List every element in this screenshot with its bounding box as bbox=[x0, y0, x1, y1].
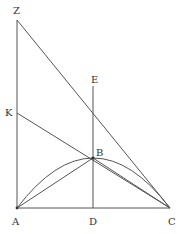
point-B bbox=[91, 156, 94, 159]
point-A bbox=[16, 207, 19, 210]
label-A: A bbox=[11, 216, 20, 227]
label-E: E bbox=[91, 74, 98, 85]
segment-BC bbox=[93, 158, 170, 208]
label-Z: Z bbox=[13, 5, 20, 16]
label-D: D bbox=[89, 216, 97, 227]
label-K: K bbox=[5, 107, 13, 118]
label-B: B bbox=[96, 147, 103, 158]
label-C: C bbox=[168, 216, 176, 227]
segment-AB bbox=[17, 158, 93, 208]
geometry-diagram: Z K A D C E B bbox=[0, 0, 186, 234]
